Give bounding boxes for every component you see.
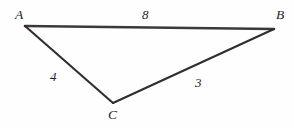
side-ab-line bbox=[25, 26, 274, 29]
side-bc-line bbox=[113, 29, 274, 103]
side-ac-line bbox=[25, 26, 113, 103]
vertex-label-b: B bbox=[276, 8, 284, 22]
side-length-label-ac: 4 bbox=[50, 70, 57, 83]
side-length-label-ab: 8 bbox=[142, 8, 149, 21]
vertex-label-c: C bbox=[108, 108, 117, 122]
side-length-label-bc: 3 bbox=[195, 76, 202, 89]
vertex-label-a: A bbox=[15, 8, 23, 22]
triangle-figure: A B C 8 4 3 bbox=[0, 0, 294, 128]
